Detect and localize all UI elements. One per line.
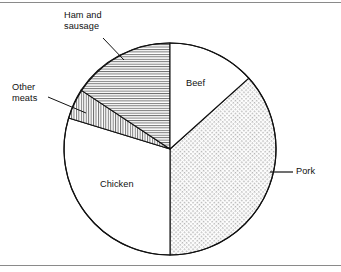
slice-label-beef: Beef (186, 78, 205, 89)
slice-label-chicken: Chicken (100, 179, 134, 190)
slice-label-pork: Pork (296, 166, 315, 177)
slice-label-other-meats: Other meats (12, 82, 37, 105)
pie-chart-svg (0, 0, 341, 272)
figure-root: Ham and sausage Other meats Pork Beef Ch… (0, 0, 341, 272)
slice-label-ham-and-sausage: Ham and sausage (64, 10, 102, 33)
leader-line-ham-and-sausage (103, 38, 124, 60)
